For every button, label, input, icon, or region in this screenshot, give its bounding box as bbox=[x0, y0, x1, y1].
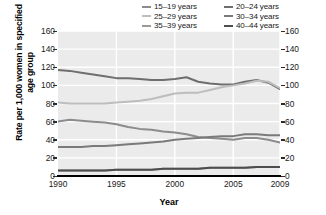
y-tick-label-right: 120 bbox=[285, 63, 299, 71]
y-tick-label-right: 60 bbox=[285, 118, 294, 126]
y-tick-mark-right bbox=[281, 103, 285, 105]
x-tick-label: 2005 bbox=[224, 179, 243, 189]
plot-area bbox=[58, 31, 280, 176]
y-tick-mark-left bbox=[53, 139, 57, 141]
plot-svg bbox=[58, 31, 280, 176]
x-tick-label: 1990 bbox=[49, 179, 68, 189]
chart-legend: 15–19 years 20–24 years 25–29 years 30–3… bbox=[142, 2, 302, 31]
y-tick-mark-left bbox=[53, 176, 57, 178]
y-tick-mark-right bbox=[281, 121, 285, 123]
legend-label-40-44: 40–44 years bbox=[236, 21, 279, 31]
y-tick-mark-left bbox=[53, 31, 57, 33]
y-tick-mark-right bbox=[281, 85, 285, 87]
x-axis-title: Year bbox=[58, 197, 280, 207]
legend-swatch-15-19 bbox=[142, 6, 151, 8]
y-tick-label-right: 20 bbox=[285, 154, 294, 162]
y-tick-mark-left bbox=[53, 103, 57, 105]
legend-swatch-25-29 bbox=[142, 15, 151, 17]
legend-swatch-20-24 bbox=[224, 6, 233, 8]
x-axis-line bbox=[57, 175, 281, 177]
legend-item-20-24: 20–24 years bbox=[224, 2, 302, 12]
y-tick-mark-left bbox=[53, 85, 57, 87]
x-tick-label: 2000 bbox=[166, 179, 185, 189]
series-line-2 bbox=[58, 81, 280, 104]
y-tick-label-right: 40 bbox=[285, 136, 294, 144]
y-tick-mark-right bbox=[281, 139, 285, 141]
legend-item-15-19: 15–19 years bbox=[142, 2, 220, 12]
y-tick-mark-right bbox=[281, 157, 285, 159]
y-tick-label-right: 80 bbox=[285, 100, 294, 108]
y-tick-mark-right bbox=[281, 31, 285, 33]
legend-item-35-39: 35–39 years bbox=[142, 21, 220, 31]
legend-swatch-35-39 bbox=[142, 25, 151, 27]
series-line-5 bbox=[58, 167, 280, 171]
y-tick-mark-right bbox=[281, 176, 285, 178]
chart-figure: 15–19 years 20–24 years 25–29 years 30–3… bbox=[0, 0, 326, 215]
legend-swatch-30-34 bbox=[224, 15, 233, 17]
y-axis-title: Rate per 1,000 women in specified age gr… bbox=[14, 3, 35, 143]
y-tick-mark-right bbox=[281, 67, 285, 69]
legend-label-25-29: 25–29 years bbox=[154, 12, 197, 22]
y-tick-label-right: 100 bbox=[285, 81, 299, 89]
x-tick-label: 2009 bbox=[271, 179, 290, 189]
legend-label-35-39: 35–39 years bbox=[154, 21, 197, 31]
legend-item-25-29: 25–29 years bbox=[142, 12, 220, 22]
y-tick-mark-left bbox=[53, 157, 57, 159]
y-tick-label-right: 160 bbox=[285, 27, 299, 35]
legend-label-15-19: 15–19 years bbox=[154, 2, 197, 12]
x-tick-label: 1995 bbox=[107, 179, 126, 189]
series-line-3 bbox=[58, 134, 280, 147]
y-tick-mark-left bbox=[53, 49, 57, 51]
y-tick-label-right: 140 bbox=[285, 45, 299, 53]
legend-label-20-24: 20–24 years bbox=[236, 2, 279, 12]
y-tick-mark-left bbox=[53, 121, 57, 123]
series-line-1 bbox=[58, 70, 280, 89]
y-tick-mark-left bbox=[53, 67, 57, 69]
legend-label-30-34: 30–34 years bbox=[236, 12, 279, 22]
legend-item-30-34: 30–34 years bbox=[224, 12, 302, 22]
legend-swatch-40-44 bbox=[224, 25, 233, 27]
y-tick-mark-right bbox=[281, 49, 285, 51]
